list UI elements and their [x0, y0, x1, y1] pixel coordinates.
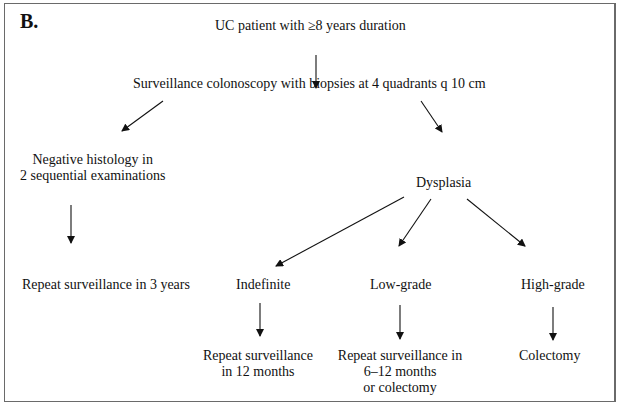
arrow-dysplasia-to-high-grade: [467, 199, 525, 246]
arrow-dysplasia-to-low-grade: [399, 199, 431, 246]
arrow-surveillance-to-dysplasia: [421, 101, 442, 132]
flow-arrows: [0, 0, 621, 407]
arrow-dysplasia-to-indefinite: [276, 197, 404, 266]
arrow-surveillance-to-negative: [122, 101, 163, 131]
